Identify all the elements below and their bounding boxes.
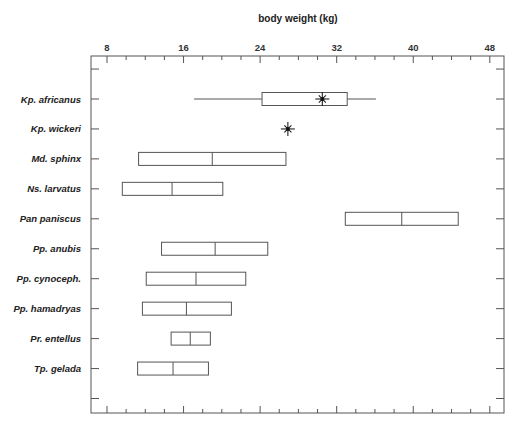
x-tick-label: 16	[178, 42, 189, 53]
boxplot-row	[345, 212, 458, 225]
x-axis-bottom	[107, 406, 490, 413]
boxplot-row	[142, 302, 231, 315]
chart-title: body weight (kg)	[258, 13, 337, 24]
boxplot-row	[139, 152, 286, 165]
category-label: Pp. hamadryas	[13, 303, 81, 314]
x-tick-label: 32	[331, 42, 342, 53]
boxplot-row	[138, 362, 209, 375]
row-labels: Kp. africanusKp. wickeriMd. sphinxNs. la…	[13, 94, 81, 375]
y-axis-ticks	[91, 69, 504, 398]
category-label: Pp. anubis	[33, 243, 81, 254]
boxplot-row	[194, 92, 376, 106]
category-label: Pan paniscus	[20, 213, 81, 224]
x-tick-label: 24	[255, 42, 266, 53]
category-label: Pr. entellus	[30, 333, 81, 344]
category-label: Pp. cynoceph.	[17, 273, 81, 284]
category-label: Ns. larvatus	[27, 183, 81, 194]
x-tick-label: 48	[485, 42, 496, 53]
boxplot-row	[162, 242, 268, 255]
category-label: Md. sphinx	[31, 153, 81, 164]
category-label: Kp. africanus	[21, 94, 81, 105]
category-label: Tp. gelada	[34, 363, 81, 374]
x-tick-label: 8	[104, 42, 109, 53]
iqr-box	[262, 93, 347, 106]
x-axis-top: 81624324048	[104, 42, 495, 63]
plot-frame	[91, 56, 504, 413]
category-label: Kp. wickeri	[31, 123, 82, 134]
boxplot-row	[146, 272, 246, 285]
boxplot-row	[281, 122, 295, 136]
x-tick-label: 40	[408, 42, 419, 53]
asterisk-marker-icon	[281, 122, 295, 136]
boxplot-chart: body weight (kg) 81624324048 Kp. african…	[0, 0, 520, 431]
boxplot-row	[171, 332, 210, 345]
boxplot-row	[122, 182, 222, 195]
plot-area	[122, 92, 458, 375]
